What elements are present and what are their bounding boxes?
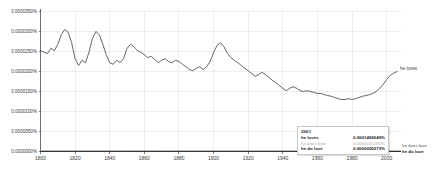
legend-label-he-do-love[interactable]: he do love — [402, 149, 424, 154]
y-axis-tick-labels: 0.0000350%0.0000300%0.0000250%0.0000200%… — [11, 9, 37, 154]
x-tick-label: 1980 — [346, 155, 357, 161]
tooltip-series-value: 0.0000000272% — [353, 146, 385, 152]
ngram-chart-app: 0.0000350%0.0000300%0.0000250%0.0000200%… — [0, 0, 438, 174]
y-tick-label: 0.0000000% — [11, 149, 37, 154]
data-tooltip: 2001 he loves 0.0001469649% he does love… — [297, 126, 389, 155]
y-tick-label: 0.0000200% — [11, 69, 37, 74]
tooltip-series-name: he do love — [301, 146, 323, 152]
x-tick-label: 1800 — [35, 155, 46, 161]
y-tick-label: 0.0000150% — [11, 89, 37, 94]
x-tick-label: 1900 — [208, 155, 219, 161]
x-tick-label: 1820 — [70, 155, 81, 161]
legend-label-he-does-love[interactable]: he does love — [402, 143, 427, 148]
y-tick-label: 0.0000100% — [11, 109, 37, 114]
x-tick-label: 1960 — [312, 155, 323, 161]
y-tick-label: 0.0000050% — [11, 129, 37, 134]
x-tick-label: 1860 — [139, 155, 150, 161]
series-end-labels: he loves — [400, 66, 418, 71]
x-tick-label: 2000 — [381, 155, 392, 161]
tooltip-row: he do love 0.0000000272% — [301, 146, 385, 152]
legend-swatch-he-do-love — [396, 151, 401, 152]
y-tick-label: 0.0000250% — [11, 49, 37, 54]
x-tick-label: 1920 — [243, 155, 254, 161]
x-axis-tick-labels: 1800182018401860188019001920194019601980… — [35, 155, 392, 161]
series-end-label-he-loves: he loves — [400, 66, 418, 71]
y-tick-label: 0.0000350% — [11, 9, 37, 14]
x-tick-label: 1940 — [277, 155, 288, 161]
series-line-he-loves[interactable] — [41, 30, 398, 100]
y-tick-label: 0.0000300% — [11, 29, 37, 34]
x-tick-label: 1840 — [104, 155, 115, 161]
x-tick-label: 1880 — [173, 155, 184, 161]
